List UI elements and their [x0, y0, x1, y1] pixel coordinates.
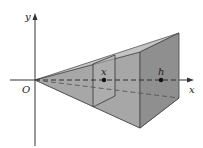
- height-label: h: [158, 66, 164, 77]
- pyramid-diagram: y O x h x: [0, 0, 203, 148]
- point-h: [159, 78, 163, 82]
- x-axis: [179, 78, 194, 83]
- pyramid-solid: [35, 33, 179, 128]
- origin-label: O: [22, 84, 30, 95]
- x-axis-arrow-icon: [187, 78, 194, 83]
- cross-section-label: x: [101, 66, 107, 77]
- y-axis-label: y: [24, 11, 31, 22]
- point-x: [102, 78, 106, 82]
- x-axis-label: x: [189, 84, 195, 95]
- y-axis-arrow-icon: [33, 13, 38, 20]
